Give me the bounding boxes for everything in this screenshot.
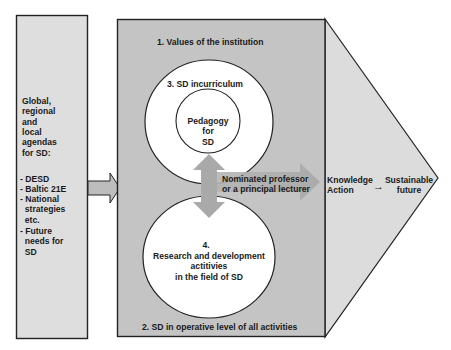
input-arrow [88,173,120,203]
research-label: Research and development actitivies in t… [149,251,269,282]
knowledge-action-label: Knowledge Action [327,175,373,196]
curriculum-label: 3. SD incurriculum [167,79,243,89]
agendas-heading: Global, regional and local agendas for S… [22,96,57,158]
sustainable-future-label: Sustainable future [382,175,436,196]
values-label: 1. Values of the institution [157,37,263,47]
agenda-item-future: - Future needs for SD [20,226,63,257]
agenda-item-national: - National strategies etc. [20,194,65,225]
connector-label: Nominated professor or a principal lectu… [222,174,306,195]
research-number: 4. [196,240,216,250]
pedagogy-label: Pedagogy for SD [183,116,233,147]
operative-level-label: 2. SD in operative level of all activiti… [142,322,297,332]
agenda-item-desd: - DESD [20,174,49,184]
agenda-item-baltic: - Baltic 21E [20,184,66,194]
